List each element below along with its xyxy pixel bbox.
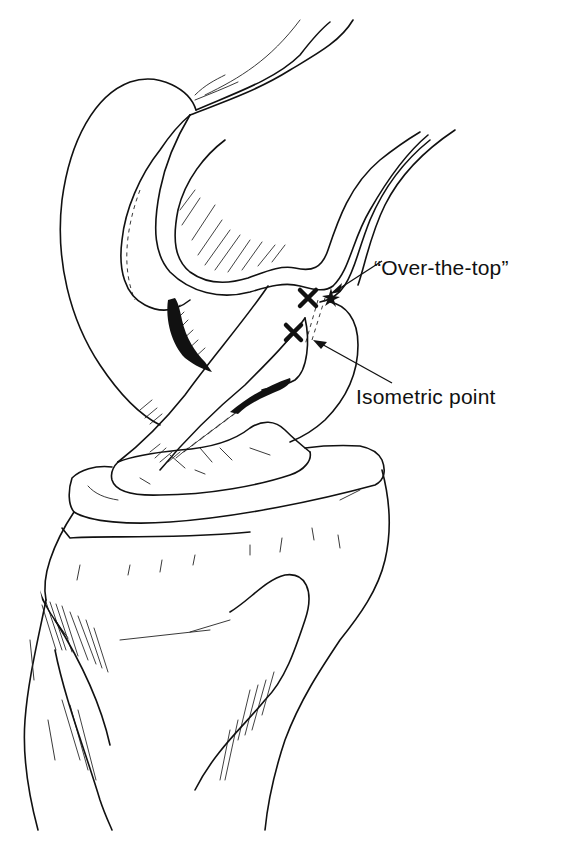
over-the-top-label: “Over-the-top” [374, 256, 509, 280]
over-the-top-marker [300, 290, 316, 306]
isometric-point-marker [286, 325, 301, 340]
isometric-point-label: Isometric point [356, 385, 496, 409]
posterior-condyle [290, 298, 358, 442]
tibia [24, 470, 389, 830]
condyle-shading [167, 298, 212, 372]
tibial-plateau [69, 422, 384, 523]
acl-graft [118, 286, 308, 470]
femur [60, 20, 455, 425]
knee-illustration [0, 0, 568, 844]
